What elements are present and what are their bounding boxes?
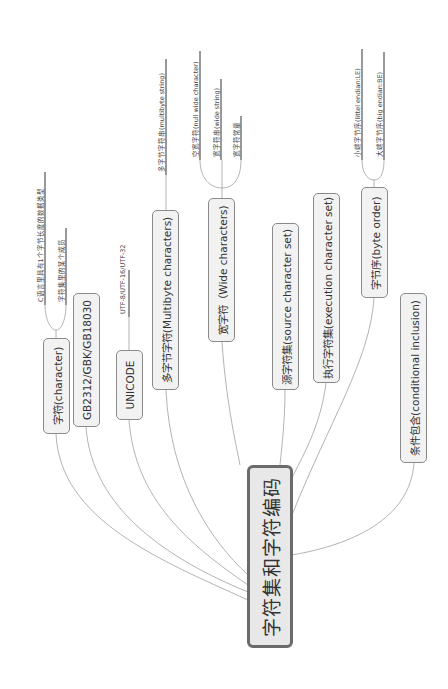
leaf-c-byte-type[interactable]: C语言里具有1个字节长度的数据类型 <box>35 188 45 302</box>
branch-label: 源字符集(source character set) <box>278 228 293 384</box>
branch-label: GB2312/GBK/GB18030 <box>81 300 93 420</box>
branch-label: 字节序(byte order) <box>367 196 382 289</box>
branch-source-charset[interactable]: 源字符集(source character set) <box>272 223 299 390</box>
leaf-null-wide-char[interactable]: 空宽字符(null wide character) <box>190 62 200 157</box>
root-label: 字符集和字符编码 <box>257 477 284 637</box>
branch-byte-order[interactable]: 字节序(byte order) <box>361 187 388 298</box>
leaf-big-endian[interactable]: 大端字节序(big endian:BE) <box>374 72 384 157</box>
branch-gb[interactable]: GB2312/GBK/GB18030 <box>73 293 100 427</box>
branch-character[interactable]: 字符(character) <box>43 338 70 434</box>
leaf-utf[interactable]: UTF-8/UTF-16/UTF-32 <box>119 245 127 315</box>
branch-label: UNICODE <box>124 361 136 410</box>
branch-wide[interactable]: 宽字符（Wide characters) <box>208 198 235 342</box>
branch-label: 执行字符集(execution character set) <box>319 197 334 379</box>
branch-label: 字符(character) <box>49 347 64 425</box>
branch-label: 宽字符（Wide characters) <box>214 205 229 334</box>
leaf-little-endian[interactable]: 小端字节序(littel endian:LE) <box>352 68 362 157</box>
branch-label: 多字节字符(Multibyte characters) <box>158 217 173 383</box>
branch-unicode[interactable]: UNICODE <box>116 350 143 420</box>
branch-label: 条件包含(conditional inclusion) <box>406 300 421 456</box>
leaf-wide-char-constant[interactable]: 宽字符常量 <box>231 122 241 157</box>
root-node[interactable]: 字符集和字符编码 <box>247 465 293 648</box>
leaf-charset-member[interactable]: 字符集里的某个成员 <box>56 239 66 302</box>
branch-conditional-inclusion[interactable]: 条件包含(conditional inclusion) <box>400 293 427 463</box>
branch-multibyte[interactable]: 多字节字符(Multibyte characters) <box>152 210 179 390</box>
leaf-wide-string[interactable]: 宽字符串(wide string) <box>211 88 221 157</box>
branch-execution-charset[interactable]: 执行字符集(execution character set) <box>313 193 340 383</box>
leaf-multibyte-string[interactable]: 多字节字符串(multibyte string) <box>156 73 166 172</box>
